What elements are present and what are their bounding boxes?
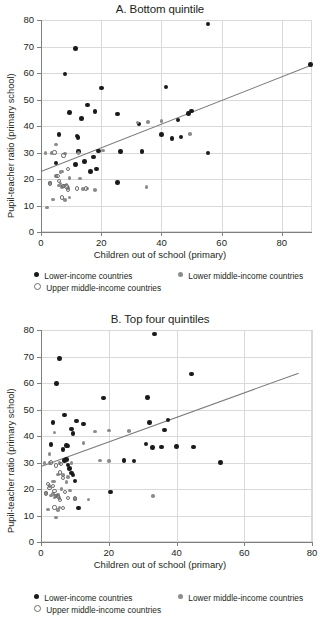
legend-marker-lower-middle-income-icon: [178, 272, 183, 277]
chart-a-gridline-horizontal: [41, 206, 312, 207]
chart-a-data-point: [146, 120, 150, 124]
chart-a-data-point: [189, 109, 194, 114]
chart-b-data-point: [82, 441, 86, 445]
chart-b-data-point: [70, 461, 74, 465]
chart-a-data-point: [66, 188, 70, 192]
chart-b-y-tick: [37, 516, 41, 517]
chart-a-data-point: [73, 162, 78, 167]
chart-b-data-point: [61, 447, 66, 452]
chart-b-y-tick-label: 80: [3, 324, 34, 335]
chart-a-y-tick: [37, 153, 41, 154]
chart-b-data-point: [107, 459, 111, 463]
chart-a-y-tick-label: 30: [3, 147, 34, 158]
chart-a-data-point: [160, 119, 164, 123]
chart-b-data-point: [76, 506, 81, 511]
chart-b-y-tick: [37, 463, 41, 464]
legend-item-upper-middle-income: Upper middle-income countries: [34, 282, 161, 293]
chart-a-y-axis: [41, 20, 42, 232]
chart-b-y-tick: [37, 410, 41, 411]
chart-b-data-point: [73, 496, 77, 500]
chart-a-x-tick: [161, 232, 162, 236]
chart-b-data-point: [54, 381, 59, 386]
chart-b-data-point: [159, 445, 164, 450]
chart-b-data-point: [68, 489, 72, 493]
chart-a-x-tick: [222, 232, 223, 236]
legend-item-lower-income: Lower-income countries: [34, 592, 132, 603]
chart-b-x-tick: [41, 542, 42, 546]
legend-marker-lower-income-icon: [34, 272, 39, 277]
chart-b-gridline-vertical: [312, 330, 313, 542]
chart-a-gridline-vertical: [101, 20, 102, 232]
chart-a-data-point: [170, 136, 175, 141]
chart-a-title: A. Bottom quintile: [0, 3, 320, 15]
chart-b-x-tick-label: 0: [26, 547, 56, 558]
chart-a-y-tick-label: 0: [3, 226, 34, 237]
chart-a-y-tick-label: 70: [3, 41, 34, 52]
chart-a-x-tick-label: 0: [26, 237, 56, 248]
chart-b-data-point: [65, 480, 69, 484]
chart-b-x-axis-label: Children out of school (primary): [0, 559, 320, 570]
chart-b-x-tick-label: 20: [94, 547, 124, 558]
chart-b-data-point: [66, 475, 70, 479]
chart-b-y-axis: [41, 330, 42, 542]
chart-b-y-tick: [37, 330, 41, 331]
chart-b-data-point: [151, 494, 155, 498]
chart-a-data-point: [48, 181, 52, 185]
legend-marker-lower-middle-income-icon: [178, 594, 183, 599]
chart-b-x-tick: [177, 542, 178, 546]
chart-a-gridline-horizontal: [41, 47, 312, 48]
legend-label-upper-middle-income: Upper middle-income countries: [46, 605, 161, 615]
panel-b-top-four-quintiles: B. Top four quintiles Pupil-teacher rati…: [0, 305, 320, 627]
chart-b-data-point: [64, 457, 69, 462]
chart-a-x-axis-label: Children out of school (primary): [0, 249, 320, 260]
chart-a-data-point: [159, 132, 164, 137]
chart-b-data-point: [147, 420, 152, 425]
chart-b-x-tick: [109, 542, 110, 546]
legend-label-lower-middle-income: Lower middle-income countries: [188, 271, 303, 281]
chart-b-gridline-vertical: [109, 330, 110, 542]
chart-a-data-point: [52, 150, 56, 154]
chart-a-gridline-horizontal: [41, 20, 312, 21]
chart-a-data-point: [101, 149, 105, 153]
chart-a-y-tick: [37, 206, 41, 207]
chart-a-data-point: [44, 151, 48, 155]
chart-a-data-point: [78, 177, 82, 181]
chart-b-y-tick-label: 20: [3, 483, 34, 494]
chart-a-y-tick: [37, 232, 41, 233]
chart-a-y-tick: [37, 100, 41, 101]
chart-b-x-tick: [312, 542, 313, 546]
chart-b-y-tick: [37, 489, 41, 490]
chart-b-data-point: [58, 498, 62, 502]
chart-b-data-point: [46, 508, 50, 512]
chart-a-gridline-horizontal: [41, 100, 312, 101]
chart-a-data-point: [308, 62, 313, 67]
chart-b-x-tick: [244, 542, 245, 546]
chart-a-x-tick-label: 80: [267, 237, 297, 248]
chart-a-data-point: [140, 149, 145, 154]
chart-b-data-point: [47, 486, 51, 490]
chart-b-x-tick-label: 40: [162, 547, 192, 558]
chart-a-x-tick: [282, 232, 283, 236]
chart-a-gridline-vertical: [161, 20, 162, 232]
chart-a-y-tick-label: 10: [3, 200, 34, 211]
chart-b-y-tick-label: 10: [3, 510, 34, 521]
chart-a-y-tick: [37, 126, 41, 127]
chart-a-gridline-horizontal: [41, 73, 312, 74]
chart-b-data-point: [63, 490, 67, 494]
chart-a-data-point: [99, 86, 104, 91]
chart-b-data-point: [62, 413, 67, 418]
chart-b-x-tick-label: 80: [297, 547, 320, 558]
chart-b-data-point: [152, 332, 157, 337]
chart-b-data-point: [54, 463, 58, 467]
chart-b-y-tick-label: 40: [3, 430, 34, 441]
chart-a-y-tick: [37, 47, 41, 48]
legend-item-lower-middle-income: Lower middle-income countries: [178, 270, 303, 281]
chart-a-data-point: [61, 153, 65, 157]
chart-b-data-point: [49, 460, 53, 464]
chart-b-data-point: [52, 505, 56, 509]
chart-b-data-point: [127, 429, 131, 433]
chart-b-y-tick: [37, 542, 41, 543]
chart-a-y-tick: [37, 179, 41, 180]
chart-a-data-point: [66, 167, 70, 171]
legend-item-lower-middle-income: Lower middle-income countries: [178, 592, 303, 603]
